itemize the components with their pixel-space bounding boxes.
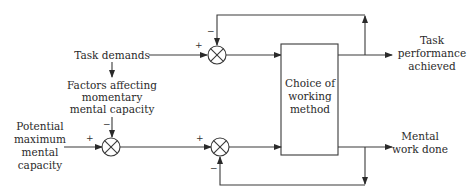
task-demands-label: Task demands: [74, 49, 150, 61]
choice-box-label: Choice of working method: [285, 77, 336, 115]
svg-text:work done: work done: [392, 143, 448, 155]
svg-text:maximum: maximum: [14, 133, 66, 145]
svg-text:Mental: Mental: [401, 130, 439, 142]
top-summing-junction: [208, 46, 226, 64]
mental-work-done-label: Mental work done: [392, 130, 448, 155]
potential-capacity-label: Potential maximum mental capacity: [14, 120, 66, 171]
svg-text:Task: Task: [420, 34, 445, 46]
minus-sign-top: −: [207, 26, 215, 36]
svg-text:method: method: [290, 103, 330, 115]
control-loop-diagram: Task demands + Factors affecting momenta…: [0, 0, 474, 194]
svg-text:achieved: achieved: [408, 60, 456, 72]
plus-sign-top: +: [195, 40, 203, 50]
task-performance-label: Task performance achieved: [398, 34, 466, 72]
svg-text:performance: performance: [398, 47, 466, 59]
svg-text:Factors affecting: Factors affecting: [67, 79, 157, 91]
plus-sign-work: +: [196, 133, 204, 143]
svg-text:mental: mental: [22, 146, 59, 158]
svg-text:capacity: capacity: [18, 159, 63, 171]
svg-text:mental capacity: mental capacity: [70, 103, 155, 115]
svg-text:Choice of: Choice of: [285, 77, 336, 89]
svg-text:Potential: Potential: [16, 120, 64, 132]
svg-text:momentary: momentary: [82, 91, 143, 103]
plus-sign-potential: +: [86, 133, 94, 143]
work-summing-junction: [211, 138, 229, 156]
bottom-feedback-line: [220, 157, 365, 185]
minus-sign-bottom: −: [210, 163, 218, 173]
top-feedback-line: [217, 15, 365, 45]
capacity-summing-junction: [102, 138, 120, 156]
minus-sign-factors: −: [103, 119, 111, 129]
svg-text:working: working: [288, 90, 332, 102]
factors-label: Factors affecting momentary mental capac…: [67, 79, 157, 115]
